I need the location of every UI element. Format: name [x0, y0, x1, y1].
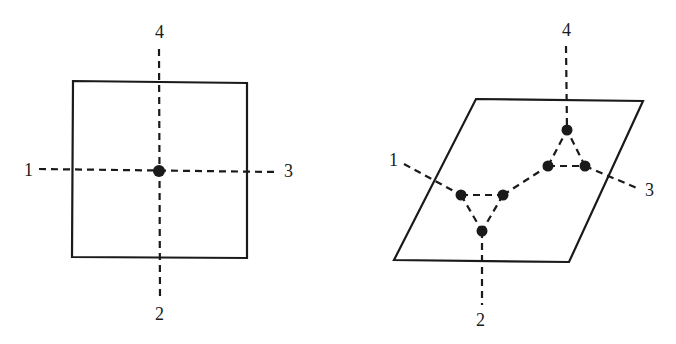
node-low-bottom: [477, 226, 488, 237]
parallelogram-outline: [394, 99, 643, 262]
tri-up-edge-left: [548, 130, 567, 166]
tri-low-edge-right: [482, 195, 503, 231]
leg-1: [404, 164, 461, 195]
node-low-left: [456, 190, 467, 201]
label-right-4: 4: [562, 20, 571, 40]
label-left-3: 3: [284, 161, 293, 181]
node-up-top: [562, 125, 573, 136]
tri-low-edge-left: [461, 195, 482, 231]
node-low-right: [498, 190, 509, 201]
diagram-canvas: 1 2 3 4 1 2 3 4: [0, 0, 676, 344]
label-left-4: 4: [155, 22, 164, 42]
node-up-left: [543, 161, 554, 172]
node-up-right: [580, 161, 591, 172]
label-right-2: 2: [476, 310, 485, 330]
label-right-1: 1: [389, 150, 398, 170]
left-figure: 1 2 3 4: [24, 22, 293, 324]
junction-node: [153, 165, 165, 177]
label-left-2: 2: [155, 304, 164, 324]
leg-4: [566, 46, 567, 130]
tri-up-edge-right: [567, 130, 585, 166]
bridge-line: [503, 166, 548, 195]
label-left-1: 1: [24, 160, 33, 180]
right-figure: 1 2 3 4: [389, 20, 654, 330]
label-right-3: 3: [645, 180, 654, 200]
